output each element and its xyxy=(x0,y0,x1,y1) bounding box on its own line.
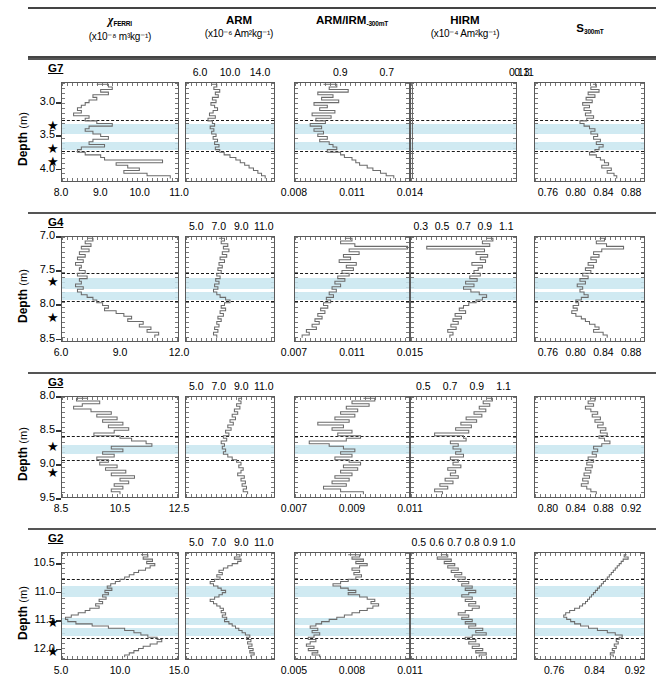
x-tick-label: 12.0 xyxy=(155,346,203,358)
x-tick-label: 11.0 xyxy=(240,220,288,232)
arm-unit: (x10⁻⁶ Am²kg⁻¹) xyxy=(185,28,293,41)
data-curve xyxy=(62,237,178,341)
x-tick-label: 0.92 xyxy=(611,664,659,676)
x-tick-label: 0.7 xyxy=(363,66,411,78)
x-tick-label: 9.0 xyxy=(96,346,144,358)
core-row-g7: G7Depth (m)3.03.54.0★★★8.09.010.011.06.0… xyxy=(0,58,668,208)
data-curve xyxy=(186,237,274,341)
y-tick-mark xyxy=(56,498,61,500)
star-marker: ★ xyxy=(47,122,59,130)
x-tick-label: 0.008 xyxy=(270,186,318,198)
plot-panel-g7-s xyxy=(534,82,645,182)
plot-panel-g3-chi xyxy=(61,396,179,498)
y-tick-label: 7.0 xyxy=(19,229,55,241)
column-header-s-ratio: S300mT xyxy=(534,22,646,38)
core-label-g7: G7 xyxy=(48,62,63,74)
data-curve xyxy=(62,397,178,497)
chi-unit: (x10⁻⁸ m³kg⁻¹) xyxy=(61,31,179,44)
plot-panel-g4-arm xyxy=(185,236,275,342)
x-tick-label: 0.007 xyxy=(270,346,318,358)
star-marker: ★ xyxy=(47,158,59,166)
plot-panel-g7-hirm xyxy=(410,82,517,182)
data-curve xyxy=(535,397,644,497)
x-tick-label: 0.008 xyxy=(328,664,376,676)
chi-subscript: FERRI xyxy=(113,20,132,27)
x-tick-label: 0.009 xyxy=(328,502,376,514)
data-curve xyxy=(62,83,178,181)
column-header-chi-ferri: χFERRI (x10⁻⁸ m³kg⁻¹) xyxy=(61,14,179,44)
data-curve xyxy=(186,553,274,659)
row-separator-rule xyxy=(28,58,656,60)
core-row-g4: G4Depth (m)7.07.58.08.5★★6.09.012.05.07.… xyxy=(0,212,668,368)
plot-panel-g2-armirm xyxy=(294,552,410,660)
y-tick-label: 11.0 xyxy=(19,585,55,597)
y-tick-label: 10.5 xyxy=(19,556,55,568)
data-curve xyxy=(295,83,409,181)
y-tick-label: 8.5 xyxy=(19,423,55,435)
plot-panel-g3-hirm xyxy=(410,396,517,498)
x-tick-label: 10.0 xyxy=(96,664,144,676)
data-curve xyxy=(411,237,516,341)
plot-panel-g3-armirm xyxy=(294,396,410,498)
x-tick-label: 1.1 xyxy=(480,380,528,392)
star-marker: ★ xyxy=(47,278,59,286)
plot-panel-g2-hirm xyxy=(410,552,517,660)
rock-magnetic-figure: χFERRI (x10⁻⁸ m³kg⁻¹) ARM (x10⁻⁶ Am²kg⁻¹… xyxy=(0,0,668,689)
x-tick-label: 0.011 xyxy=(328,346,376,358)
depth-axis-unit: (m) xyxy=(17,112,29,129)
column-header-hirm: HIRM (x10⁻⁴ Am²kg⁻¹) xyxy=(410,14,520,40)
column-header-arm: ARM (x10⁻⁶ Am²kg⁻¹) xyxy=(185,14,293,40)
y-axis-label: Depth (m) xyxy=(16,427,30,481)
x-tick-label: 0.011 xyxy=(328,186,376,198)
arm-irm-title: ARM/IRM xyxy=(316,14,366,26)
x-tick-label: 14.0 xyxy=(236,66,284,78)
s-subscript: 300mT xyxy=(584,28,604,35)
s-title: S xyxy=(576,22,584,34)
star-marker: ★ xyxy=(47,648,59,656)
data-curve xyxy=(535,553,644,659)
x-tick-label: 0.007 xyxy=(270,502,318,514)
data-curve xyxy=(411,553,516,659)
plot-panel-g2-s xyxy=(534,552,645,660)
x-tick-label: 0.014 xyxy=(386,186,434,198)
column-header-arm-irm: ARM/IRM-300mT xyxy=(294,14,410,30)
y-tick-label: 8.0 xyxy=(19,389,55,401)
y-axis-label: Depth (m) xyxy=(16,269,30,323)
row-separator-rule xyxy=(28,212,656,214)
plot-panel-g3-arm xyxy=(185,396,275,498)
star-marker: ★ xyxy=(47,443,59,451)
row-separator-rule xyxy=(28,528,656,530)
plot-panel-g7-armirm xyxy=(294,82,410,182)
star-marker: ★ xyxy=(47,619,59,627)
x-tick-label: 1.0 xyxy=(484,536,532,548)
x-tick-label: 0.9 xyxy=(316,66,364,78)
data-curve xyxy=(295,553,409,659)
hirm-unit: (x10⁻⁴ Am²kg⁻¹) xyxy=(410,28,520,41)
x-tick-label: 0.88 xyxy=(607,346,655,358)
plot-panel-g4-s xyxy=(534,236,645,342)
data-curve xyxy=(535,83,644,181)
star-marker: ★ xyxy=(47,145,59,153)
x-tick-label: 0.88 xyxy=(607,186,655,198)
data-curve xyxy=(535,237,644,341)
data-curve xyxy=(295,397,409,497)
x-tick-label: 10.5 xyxy=(96,502,144,514)
star-marker: ★ xyxy=(47,314,59,322)
x-tick-label: 0.92 xyxy=(607,502,655,514)
arm-irm-subscript: -300mT xyxy=(366,20,388,27)
plot-panel-g3-s xyxy=(534,396,645,498)
y-tick-label: 3.0 xyxy=(19,95,55,107)
star-marker: ★ xyxy=(47,469,59,477)
y-tick-label: 8.0 xyxy=(19,297,55,309)
x-tick-label: 0.011 xyxy=(386,502,434,514)
core-label-g4: G4 xyxy=(48,216,63,228)
x-tick-label: 15.0 xyxy=(155,664,203,676)
data-curve xyxy=(411,397,516,497)
hirm-title: HIRM xyxy=(450,14,479,26)
x-tick-label: 1.1 xyxy=(482,220,530,232)
plot-panel-g7-arm xyxy=(185,82,275,182)
data-curve xyxy=(295,237,409,341)
x-tick-label: 12.5 xyxy=(155,502,203,514)
x-tick-label: 11.0 xyxy=(240,536,288,548)
x-tick-label: 0.015 xyxy=(386,346,434,358)
